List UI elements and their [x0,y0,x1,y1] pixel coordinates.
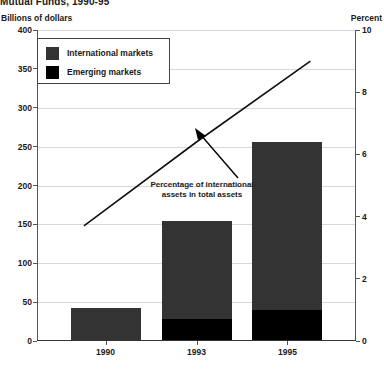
y-axis-left-tick-mark [33,146,37,147]
x-axis-tick-label: 1990 [96,347,115,357]
y-axis-right-tick-mark [356,30,360,31]
y-axis-left-tick-label: 300 [2,103,32,113]
y-axis-right-line [355,30,356,341]
chart-title: Mutual Funds, 1990-95 [0,0,109,7]
annotation-line-2: assets in total assets [162,190,242,199]
gridline [37,108,356,109]
y-axis-left-tick-label: 250 [2,142,32,152]
y-axis-right-tick-label: 10 [362,25,384,35]
y-axis-left-tick-mark [33,302,37,303]
legend-swatch-emerging [46,66,59,79]
bar-1990 [71,308,141,340]
chart-legend: International markets Emerging markets [37,38,170,84]
chart-container: Mutual Funds, 1990-95 Billions of dollar… [0,0,384,372]
legend-label-international: International markets [67,48,153,58]
y-axis-right-tick-label: 4 [362,212,384,222]
bar-segment-international [252,142,322,311]
y-axis-left-tick-label: 350 [2,64,32,74]
bar-segment-emerging [162,319,232,340]
y-axis-left-tick-mark [33,263,37,264]
x-axis-tick-label: 1993 [187,347,206,357]
y-axis-right-tick-mark [356,341,360,342]
y-axis-right-tick-label: 6 [362,149,384,159]
bar-segment-emerging [252,310,322,340]
gridline [37,30,356,31]
y-axis-left-tick-mark [33,107,37,108]
x-axis-tick-mark [287,341,288,345]
bar-1995 [252,142,322,340]
legend-item-international: International markets [46,46,153,60]
bar-1993 [162,221,232,340]
y-axis-left-tick-mark [33,341,37,342]
y-axis-left-tick-mark [33,30,37,31]
y-axis-left-tick-label: 0 [2,336,32,346]
y-axis-right-unit-label: Percent [351,13,382,23]
y-axis-left-tick-label: 50 [2,297,32,307]
y-axis-left-unit-label: Billions of dollars [1,13,72,23]
y-axis-left-tick-mark [33,224,37,225]
y-axis-right-tick-label: 8 [362,87,384,97]
x-axis-tick-mark [106,341,107,345]
y-axis-right-tick-mark [356,154,360,155]
y-axis-right-tick-mark [356,278,360,279]
y-axis-left-tick-label: 200 [2,181,32,191]
legend-label-emerging: Emerging markets [67,67,141,77]
y-axis-left-tick-label: 100 [2,258,32,268]
x-axis-tick-label: 1995 [278,347,297,357]
y-axis-right-tick-mark [356,216,360,217]
y-axis-right-tick-label: 2 [362,274,384,284]
bar-segment-international [162,221,232,319]
x-axis-tick-mark [197,341,198,345]
y-axis-left-tick-mark [33,185,37,186]
y-axis-right-tick-label: 0 [362,336,384,346]
legend-item-emerging: Emerging markets [46,65,141,79]
y-axis-left-tick-label: 400 [2,25,32,35]
chart-annotation: Percentage of international assets in to… [138,180,266,200]
annotation-line-1: Percentage of international [150,180,253,189]
y-axis-right-tick-mark [356,92,360,93]
legend-swatch-international [46,47,59,60]
bar-segment-international [71,308,141,340]
y-axis-left-tick-label: 150 [2,219,32,229]
